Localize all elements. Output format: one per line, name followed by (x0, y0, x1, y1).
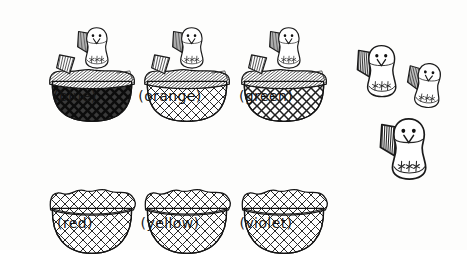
basket-yellow (125, 152, 215, 220)
loose-chick-3 (378, 108, 426, 168)
basket-blue-label: (blue) (30, 88, 120, 105)
basket-blue (30, 18, 120, 88)
chick-eye-left (375, 54, 378, 58)
chick-eye-right (291, 34, 294, 37)
chick-eye-left (401, 129, 405, 133)
basket-red-label: (red) (30, 215, 120, 232)
basket-orange-label: (orange) (122, 88, 218, 105)
basket-orange (125, 18, 215, 88)
chick-feet-icon (398, 161, 419, 171)
chick-eye-right (384, 54, 387, 58)
loose-chick-1-group (357, 46, 395, 97)
chick-eye-right (412, 129, 416, 133)
basket-orange-chick-group (173, 28, 203, 68)
chick-feet-icon (185, 56, 199, 63)
chick-eye-left (284, 34, 287, 37)
basket-green-chick-group (270, 28, 300, 68)
loose-chick-2 (405, 55, 453, 115)
loose-chick-2-group (405, 62, 442, 109)
basket-yellow-label: (yellow) (122, 215, 218, 232)
chick-eye-left (187, 34, 190, 37)
basket-red (30, 152, 120, 220)
basket-green (222, 18, 312, 88)
chick-feet-icon (282, 56, 296, 63)
chick-eye-right (194, 34, 197, 37)
chick-eye-left (92, 34, 95, 37)
loose-chick-1 (355, 36, 403, 96)
basket-blue-chick-group (78, 28, 108, 68)
basket-green-label: (green) (220, 88, 312, 105)
basket-violet (222, 152, 312, 220)
chick-eye-right (99, 34, 102, 37)
basket-violet-label: (violet) (220, 215, 312, 232)
loose-chick-3-group (380, 119, 425, 179)
chick-feet-icon (90, 56, 104, 63)
chick-feet-icon (373, 82, 391, 90)
